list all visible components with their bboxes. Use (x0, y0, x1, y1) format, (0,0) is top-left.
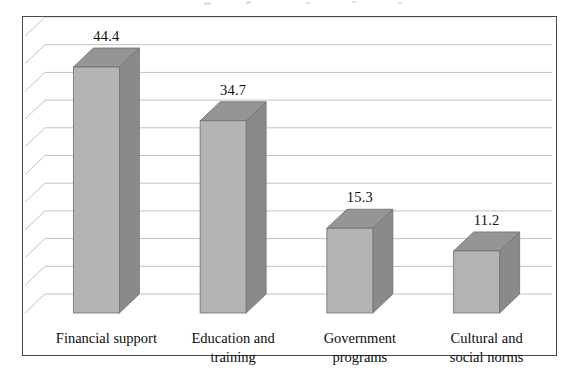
bar-chart-figure: 11.215.334.744.4 Cultural and social nor… (0, 0, 579, 377)
scan-artifact (204, 2, 211, 5)
bar-value-label: 34.7 (220, 82, 246, 99)
bar-3d (327, 209, 393, 313)
bar-value-label: 44.4 (93, 28, 119, 45)
category-label: Cultural and social norms (413, 329, 560, 367)
bar-3d (200, 102, 266, 313)
scan-artifact (352, 1, 356, 3)
scan-artifact (306, 2, 310, 4)
bar-value-label: 15.3 (347, 189, 373, 206)
chart-frame: 11.215.334.744.4 Cultural and social nor… (22, 16, 557, 356)
bar-3d (454, 232, 520, 313)
bar-value-label: 11.2 (474, 212, 500, 229)
chart-plot-area (23, 17, 556, 354)
scan-artifact (246, 1, 251, 4)
bars (73, 48, 519, 313)
scan-artifact (398, 2, 402, 4)
bar-3d (73, 48, 139, 313)
category-label: Financial support (33, 329, 180, 348)
category-label: Government programs (287, 329, 434, 367)
category-label: Education and training (160, 329, 307, 367)
